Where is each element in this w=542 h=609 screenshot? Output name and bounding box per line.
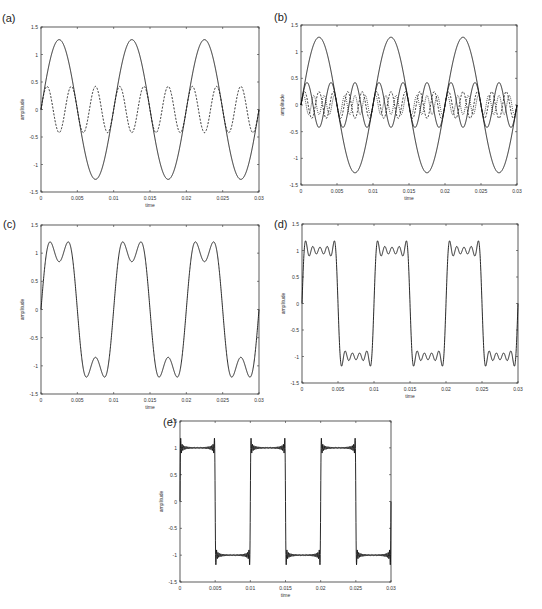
svg-text:0.5: 0.5 [31,79,38,85]
svg-text:amplitude: amplitude [158,490,164,512]
panel-a: (a) 00.0050.010.0150.020.0250.031.510.50… [0,0,271,200]
panel-d: (d) 00.0050.010.0150.020.0250.031.510.50… [271,200,542,400]
svg-text:1.5: 1.5 [31,222,38,228]
svg-text:0.02: 0.02 [316,585,326,591]
svg-text:0.025: 0.025 [476,386,489,392]
svg-text:0: 0 [40,397,43,403]
chart-c: 00.0050.010.0150.020.0250.031.510.50-0.5… [0,200,271,400]
panel-e: (e) 00.0050.010.0150.020.0250.031.510.50… [130,400,420,609]
svg-text:0.015: 0.015 [403,188,416,194]
svg-text:1.5: 1.5 [292,221,299,227]
svg-text:-1: -1 [34,363,39,369]
svg-text:0.025: 0.025 [475,188,488,194]
svg-text:0.5: 0.5 [291,75,298,81]
svg-text:0.02: 0.02 [440,188,450,194]
svg-text:time: time [405,393,415,399]
svg-text:1: 1 [296,248,299,254]
chart-d: 00.0050.010.0150.020.0250.031.510.50-0.5… [271,200,542,400]
svg-text:-1.5: -1.5 [168,579,177,585]
chart-a: 00.0050.010.0150.020.0250.031.510.50-0.5… [0,0,271,200]
svg-text:0.5: 0.5 [31,278,38,284]
svg-text:0.01: 0.01 [109,397,119,403]
svg-text:amplitude: amplitude [279,94,285,116]
chart-e: 00.0050.010.0150.020.0250.031.510.50-0.5… [130,400,420,609]
svg-text:-0.5: -0.5 [29,134,38,140]
svg-text:0.015: 0.015 [404,386,417,392]
svg-text:-1: -1 [173,552,178,558]
svg-text:0.03: 0.03 [513,386,523,392]
panel-b: (b) 00.0050.010.0150.020.0250.031.510.50… [271,0,542,200]
svg-text:0: 0 [300,188,303,194]
svg-text:0.005: 0.005 [71,397,84,403]
svg-text:-0.5: -0.5 [290,327,299,333]
svg-text:0: 0 [35,307,38,313]
svg-text:0.03: 0.03 [512,188,522,194]
svg-text:-1.5: -1.5 [289,182,298,188]
svg-text:-0.5: -0.5 [29,335,38,341]
svg-text:0.02: 0.02 [441,386,451,392]
svg-text:0.005: 0.005 [332,386,345,392]
svg-text:0.005: 0.005 [209,585,222,591]
svg-text:0: 0 [35,107,38,113]
svg-text:amplitude: amplitude [280,292,286,314]
svg-text:1: 1 [295,49,298,55]
svg-text:-1: -1 [34,162,39,168]
svg-text:0: 0 [301,386,304,392]
chart-b: 00.0050.010.0150.020.0250.031.510.50-0.5… [271,0,542,200]
svg-text:1.5: 1.5 [170,418,177,424]
svg-text:0: 0 [174,499,177,505]
svg-text:amplitude: amplitude [19,298,25,320]
svg-text:1: 1 [35,52,38,58]
svg-text:1: 1 [174,445,177,451]
svg-text:1.5: 1.5 [291,22,298,28]
panel-c: (c) 00.0050.010.0150.020.0250.031.510.50… [0,200,271,400]
svg-text:0.01: 0.01 [368,188,378,194]
svg-text:0: 0 [179,585,182,591]
svg-text:-1: -1 [294,155,299,161]
svg-text:0.025: 0.025 [350,585,363,591]
svg-text:0.01: 0.01 [369,386,379,392]
svg-text:0.01: 0.01 [245,585,255,591]
svg-text:0: 0 [295,102,298,108]
svg-text:amplitude: amplitude [19,98,25,120]
svg-text:-1.5: -1.5 [29,391,38,397]
svg-text:0.5: 0.5 [292,274,299,280]
svg-text:0.005: 0.005 [331,188,344,194]
svg-text:-0.5: -0.5 [168,525,177,531]
svg-text:0.015: 0.015 [279,585,292,591]
svg-text:1.5: 1.5 [31,24,38,30]
svg-text:0: 0 [296,301,299,307]
svg-text:-1.5: -1.5 [29,189,38,195]
svg-text:-1: -1 [295,354,300,360]
svg-text:1: 1 [35,250,38,256]
svg-text:0.03: 0.03 [386,585,396,591]
svg-text:time: time [281,592,291,598]
svg-text:0.5: 0.5 [170,472,177,478]
svg-text:-0.5: -0.5 [289,129,298,135]
svg-text:-1.5: -1.5 [290,380,299,386]
